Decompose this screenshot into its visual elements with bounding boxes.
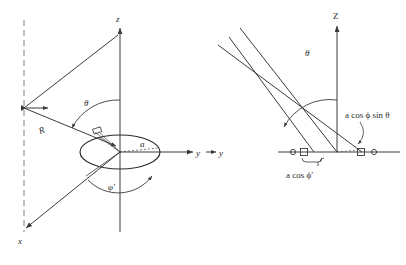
- projected-offset-label: a cos ϕ′: [286, 170, 313, 180]
- length-R-label: R: [36, 124, 46, 136]
- axis-x-label: x: [17, 236, 22, 246]
- ray-2: [229, 37, 314, 152]
- brace-projected-offset: [302, 158, 324, 162]
- angle-phi-prime-label: φ′: [108, 182, 116, 192]
- axis-z-label: z: [115, 14, 120, 24]
- field-point-to-z-ray: [24, 35, 118, 108]
- axis-x-line: [26, 152, 120, 228]
- length-a-label: a: [140, 139, 145, 149]
- path-difference-label: a cos ϕ sin θ: [345, 110, 390, 120]
- ray-3: [218, 45, 362, 152]
- angle-theta-arc: [72, 100, 120, 128]
- angle-theta-label-right: θ: [305, 48, 310, 58]
- left-diagram-group: z y x R θ a: [17, 14, 200, 246]
- path-difference-leader: [358, 122, 364, 144]
- angle-theta-label: θ: [84, 98, 89, 108]
- axis-y-label-right: y: [218, 148, 223, 158]
- diagram-canvas: z y x R θ a: [0, 0, 406, 265]
- axis-Z-label-right: Z: [333, 11, 339, 21]
- axis-y-label: y: [195, 148, 200, 158]
- ray-1: [240, 28, 337, 152]
- area-element-patch: [93, 127, 120, 152]
- right-diagram-group: Z y θ a cos ϕ′ a cos ϕ sin θ: [206, 11, 400, 180]
- figure-root: z y x R θ a: [0, 0, 406, 265]
- length-a-line: [120, 148, 158, 152]
